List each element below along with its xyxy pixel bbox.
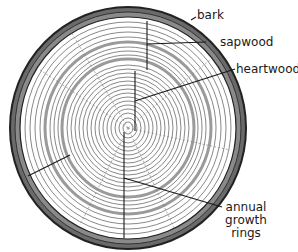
label-sapwood: sapwood: [220, 36, 273, 49]
label-bark: bark: [197, 9, 224, 22]
label-line: rings: [224, 227, 268, 240]
label-heartwood: heartwood: [236, 63, 298, 76]
label-annual-growth-rings: annual growth rings: [224, 201, 268, 240]
